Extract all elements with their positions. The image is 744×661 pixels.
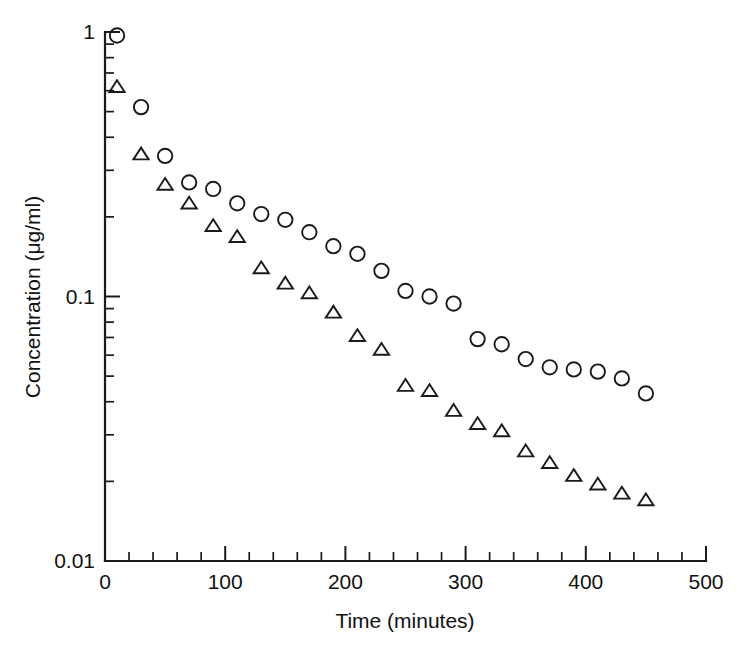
data-point-triangle <box>374 343 389 355</box>
data-series-triangles <box>109 80 653 505</box>
data-point-circle <box>398 284 412 298</box>
y-tick-label: 1 <box>83 20 95 43</box>
data-point-triangle <box>350 329 365 341</box>
data-point-circle <box>422 289 436 303</box>
data-point-circle <box>494 337 508 351</box>
x-axis-tick-labels: 0100200300400500 <box>99 570 723 593</box>
x-tick-label: 400 <box>568 570 603 593</box>
data-point-triangle <box>614 487 629 499</box>
data-point-triangle <box>254 262 269 274</box>
x-tick-label: 100 <box>208 570 243 593</box>
data-point-circle <box>470 332 484 346</box>
y-tick-label: 0.01 <box>54 549 95 572</box>
data-point-triangle <box>278 277 293 289</box>
data-point-triangle <box>518 445 533 457</box>
y-tick-label: 0.1 <box>66 285 95 308</box>
x-tick-label: 200 <box>328 570 363 593</box>
x-axis-ticks <box>105 546 706 561</box>
y-axis-tick-labels: 10.10.01 <box>54 20 95 572</box>
y-axis-ticks <box>105 32 120 561</box>
data-point-triangle <box>302 286 317 298</box>
data-point-triangle <box>638 493 653 505</box>
data-point-triangle <box>470 417 485 429</box>
data-point-triangle <box>326 306 341 318</box>
data-point-triangle <box>182 197 197 209</box>
data-point-circle <box>134 100 148 114</box>
data-point-triangle <box>590 478 605 490</box>
figure-root: 10.10.01 0100200300400500 Time (minutes)… <box>0 0 744 661</box>
data-point-circle <box>182 175 196 189</box>
data-point-circle <box>350 247 364 261</box>
data-point-circle <box>302 225 316 239</box>
data-point-triangle <box>422 384 437 396</box>
data-point-triangle <box>542 456 557 468</box>
data-point-triangle <box>566 469 581 481</box>
data-point-circle <box>158 149 172 163</box>
data-point-triangle <box>398 379 413 391</box>
data-point-circle <box>639 386 653 400</box>
data-point-circle <box>615 371 629 385</box>
data-point-triangle <box>157 178 172 190</box>
data-point-circle <box>374 264 388 278</box>
data-point-circle <box>591 364 605 378</box>
data-point-triangle <box>133 148 148 160</box>
data-point-circle <box>446 296 460 310</box>
data-point-circle <box>519 352 533 366</box>
data-point-circle <box>110 28 124 42</box>
data-point-circle <box>278 213 292 227</box>
data-point-circle <box>543 360 557 374</box>
data-series-circles <box>110 28 653 400</box>
data-point-circle <box>326 239 340 253</box>
data-point-circle <box>206 182 220 196</box>
x-tick-label: 500 <box>688 570 723 593</box>
scatter-plot: 10.10.01 0100200300400500 Time (minutes)… <box>0 0 744 661</box>
x-axis-title: Time (minutes) <box>335 609 474 632</box>
y-axis-title: Concentration (μg/ml) <box>21 196 44 398</box>
data-point-circle <box>230 196 244 210</box>
data-point-triangle <box>230 230 245 242</box>
x-tick-label: 300 <box>448 570 483 593</box>
data-point-triangle <box>494 424 509 436</box>
data-point-triangle <box>206 219 221 231</box>
data-point-triangle <box>446 404 461 416</box>
data-point-circle <box>567 362 581 376</box>
data-point-circle <box>254 207 268 221</box>
x-tick-label: 0 <box>99 570 111 593</box>
axis-lines <box>105 32 706 561</box>
